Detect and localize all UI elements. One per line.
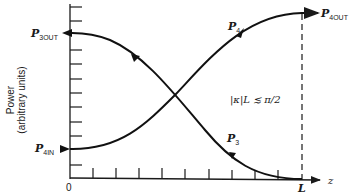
svg-text:Power: Power [5,85,16,114]
p3-curve-label: P3 [226,132,239,146]
length-label: L [297,182,306,195]
p4out-label: P4OUT [320,7,349,21]
p4-curve-label: P4 [227,20,240,34]
curve-p3 [72,33,302,179]
x-axis-label: z [327,175,334,186]
p4in-label: P4IN [34,142,54,156]
p4in-arrow-icon [60,145,70,153]
p3out-arrow-icon [62,29,72,37]
svg-text:(arbitrary units): (arbitrary units) [16,66,27,133]
condition-label: |κ|L ≲ π/2 [230,94,281,106]
curve-p4 [70,13,318,149]
y-axis-title: Power (arbitrary units) [5,66,27,133]
origin-label: 0 [66,182,72,193]
p3out-label: P3OUT [30,27,59,41]
coupled-mode-power-diagram: P3OUT P4IN P4OUT P4 P3 |κ|L ≲ π/2 0 L z … [0,0,352,196]
